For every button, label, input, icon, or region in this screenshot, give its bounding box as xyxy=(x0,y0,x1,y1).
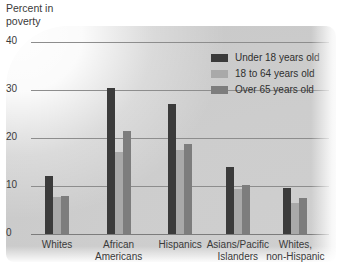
legend-label: 18 to 64 years old xyxy=(235,68,315,79)
bar xyxy=(45,176,53,234)
chart-legend: Under 18 years old 18 to 64 years old Ov… xyxy=(211,50,320,98)
legend-swatch-over-65-icon xyxy=(211,86,228,94)
bar xyxy=(242,185,250,234)
y-axis-tick-label: 20 xyxy=(6,131,28,142)
legend-label: Under 18 years old xyxy=(235,52,320,63)
background-fade-right xyxy=(311,26,341,262)
legend-item: 18 to 64 years old xyxy=(211,66,320,81)
bar xyxy=(123,131,131,234)
bar xyxy=(299,198,307,234)
bar-group xyxy=(107,42,131,234)
poverty-bar-chart: Percent in poverty Under 18 years old 18… xyxy=(0,0,341,268)
y-axis-tick-label: 0 xyxy=(6,227,28,238)
y-axis-tick-label: 40 xyxy=(6,35,28,46)
legend-swatch-18-to-64-icon xyxy=(211,70,228,78)
bar-group xyxy=(45,42,69,234)
y-axis-tick-label: 10 xyxy=(6,179,28,190)
bar xyxy=(283,188,291,234)
legend-label: Over 65 years old xyxy=(235,84,314,95)
bar xyxy=(168,104,176,234)
x-axis-tick-label: Whites, non-Hispanic xyxy=(250,239,340,263)
bar xyxy=(176,150,184,234)
bar xyxy=(61,196,69,234)
bar xyxy=(115,152,123,234)
legend-swatch-under-18-icon xyxy=(211,54,228,62)
bar xyxy=(234,189,242,234)
legend-item: Under 18 years old xyxy=(211,50,320,65)
bar xyxy=(53,197,61,234)
bar xyxy=(291,203,299,234)
y-axis-tick-label: 30 xyxy=(6,83,28,94)
bar xyxy=(226,167,234,234)
legend-item: Over 65 years old xyxy=(211,82,320,97)
bar xyxy=(107,88,115,234)
bar-group xyxy=(168,42,192,234)
bar xyxy=(184,144,192,234)
y-axis-title: Percent in poverty xyxy=(6,2,53,27)
